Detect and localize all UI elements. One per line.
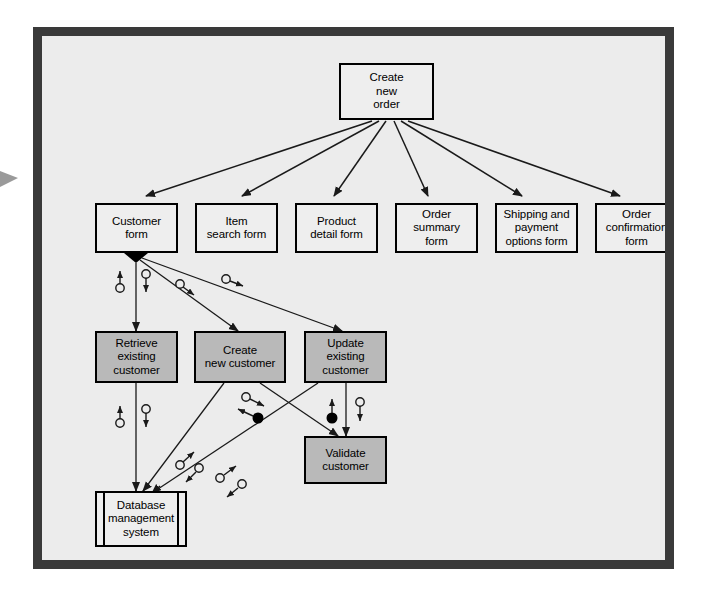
- msg-create-validate-out: [242, 393, 264, 406]
- node-order-summary-form[interactable]: Order summary form: [395, 203, 478, 253]
- node-update-existing-customer[interactable]: Update existing customer: [304, 331, 387, 383]
- diagram-root: Create new order Customer form Item sear…: [0, 0, 714, 604]
- diagram-canvas: Create new order Customer form Item sear…: [42, 36, 665, 560]
- msg-update-validate-down: [356, 398, 364, 421]
- node-create-new-order-label: Create new order: [368, 71, 406, 112]
- node-order-summary-form-label: Order summary form: [411, 208, 462, 249]
- node-shipping-payment-options-form[interactable]: Shipping and payment options form: [495, 203, 578, 253]
- node-order-confirmation-form[interactable]: Order confirmation form: [595, 203, 665, 253]
- msg-create-database-in: [186, 464, 203, 482]
- node-item-search-form[interactable]: Item search form: [195, 203, 278, 253]
- diagram-frame: Create new order Customer form Item sear…: [33, 27, 674, 569]
- msg-update-database-in: [227, 480, 246, 497]
- node-order-confirmation-form-label: Order confirmation form: [604, 208, 665, 249]
- node-customer-form[interactable]: Customer form: [95, 203, 178, 253]
- msg-update-validate-up: [327, 399, 337, 423]
- node-item-search-form-label: Item search form: [205, 215, 269, 242]
- node-product-detail-form[interactable]: Product detail form: [295, 203, 378, 253]
- node-database-management-system[interactable]: Database management system: [95, 491, 187, 547]
- node-update-existing-customer-label: Update existing customer: [320, 337, 371, 378]
- msg-create-validate-in: [238, 409, 263, 423]
- msg-customer-form-retrieve-down: [142, 270, 150, 292]
- node-product-detail-form-label: Product detail form: [308, 215, 365, 242]
- msg-customer-form-retrieve-up: [116, 271, 124, 292]
- node-retrieve-existing-customer-label: Retrieve existing customer: [111, 337, 162, 378]
- node-shipping-payment-options-form-label: Shipping and payment options form: [502, 208, 572, 249]
- page-edge-arrow-icon: [0, 168, 24, 190]
- node-database-management-system-label: Database management system: [106, 499, 176, 540]
- node-retrieve-existing-customer[interactable]: Retrieve existing customer: [95, 331, 178, 383]
- node-create-new-customer-label: Create new customer: [203, 344, 277, 371]
- msg-customer-form-update: [222, 275, 243, 286]
- node-create-new-customer[interactable]: Create new customer: [194, 331, 286, 383]
- node-validate-customer-label: Validate customer: [320, 447, 371, 474]
- node-create-new-order[interactable]: Create new order: [339, 63, 434, 120]
- msg-retrieve-database-down: [142, 405, 150, 427]
- node-customer-form-label: Customer form: [110, 215, 163, 242]
- tree-edges: [146, 121, 620, 196]
- node-validate-customer[interactable]: Validate customer: [304, 436, 387, 484]
- msg-retrieve-database-up: [116, 406, 124, 427]
- msg-update-database-out: [216, 466, 236, 482]
